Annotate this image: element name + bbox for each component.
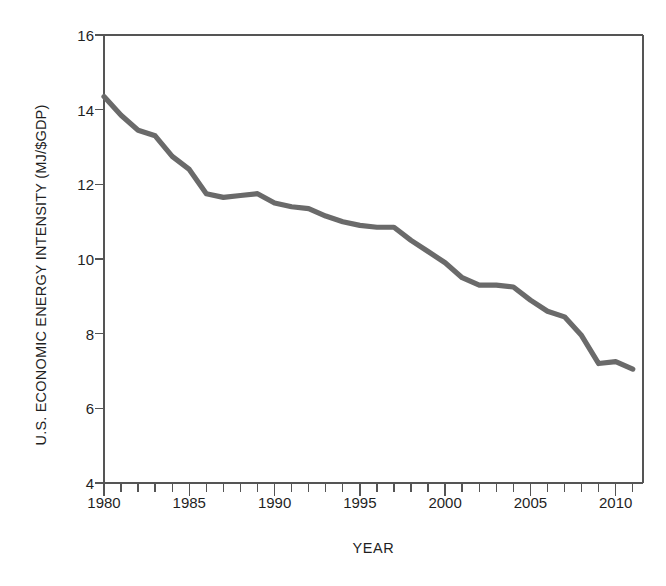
x-axis-ticks bbox=[104, 483, 633, 496]
chart-figure: U.S. ECONOMIC ENERGY INTENSITY (MJ/$GDP)… bbox=[0, 0, 666, 586]
series-line bbox=[104, 97, 633, 370]
plot-area bbox=[0, 0, 666, 586]
y-axis-ticks bbox=[95, 35, 104, 483]
data-series-line bbox=[104, 97, 633, 370]
plot-frame bbox=[104, 35, 643, 483]
